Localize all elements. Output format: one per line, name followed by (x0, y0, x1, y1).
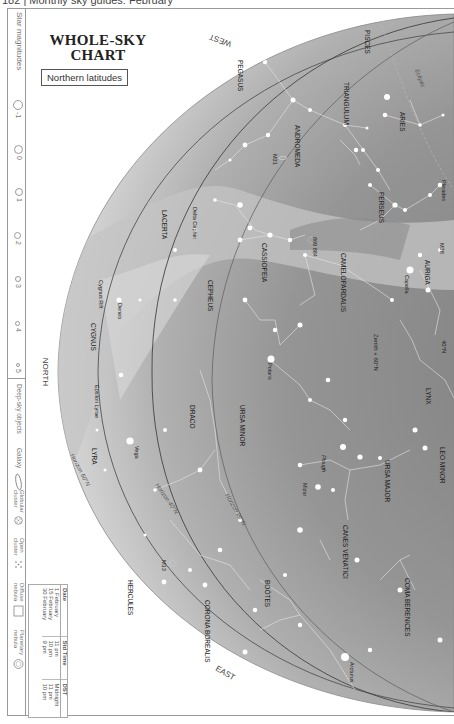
svg-text:Deneb: Deneb (117, 303, 123, 319)
svg-text:Epsilon Lyrae: Epsilon Lyrae (94, 385, 100, 418)
legend-globular-cluster: Globular cluster (13, 490, 25, 525)
svg-text:Delta Cephei: Delta Cephei (192, 207, 198, 239)
time-table-wrapper: Date Std Time DST 1 February 11 pm Midni… (28, 584, 68, 718)
magnitude-item: 0 (14, 145, 23, 160)
svg-text:Mizar: Mizar (302, 483, 308, 497)
magnitude-dot-icon (15, 321, 20, 326)
lat40-label: 40°N (441, 340, 447, 353)
galaxy-icon (15, 473, 22, 491)
svg-text:ARIES: ARIES (399, 112, 406, 132)
magnitude-item: 5 (15, 363, 22, 373)
chart-title: WHOLE-SKY CHART (48, 33, 148, 63)
legend-galaxy: Galaxy (15, 448, 23, 491)
svg-text:LYNX: LYNX (425, 388, 432, 405)
legend-strip: Star magnitudes -1 0 1 2 3 4 5 Deep-sky … (7, 8, 26, 716)
svg-text:Vega: Vega (134, 446, 140, 459)
magnitude-dot-icon (16, 363, 20, 367)
magnitude-item: 1 (15, 188, 23, 202)
globular-cluster-icon (15, 516, 24, 525)
svg-text:Capella: Capella (404, 275, 410, 295)
svg-text:Cygnus Rift: Cygnus Rift (98, 280, 104, 309)
svg-text:CANES VENATICI: CANES VENATICI (342, 525, 349, 579)
legend-planetary-nebula: Planetary nebula (13, 630, 25, 670)
chart-subtitle: Northern latitudes (41, 69, 128, 86)
whole-sky-chart: WEST NORTH EAST Horizon 60°N Horizon 40°… (26, 9, 454, 715)
magnitude-dot-icon (15, 188, 23, 196)
magnitude-dot-icon (14, 232, 21, 239)
svg-text:M31: M31 (272, 154, 278, 165)
svg-text:M13: M13 (161, 560, 167, 571)
open-cluster-icon (15, 560, 24, 569)
legend-divider (7, 378, 26, 379)
svg-text:PERSEUS: PERSEUS (378, 192, 385, 224)
time-table: Date Std Time DST 1 February 11 pm Midni… (42, 585, 68, 718)
svg-text:URSA MINOR: URSA MINOR (239, 405, 246, 446)
svg-text:CYGNUS: CYGNUS (90, 323, 97, 351)
svg-text:DRACO: DRACO (189, 405, 196, 428)
svg-text:Arcturus: Arcturus (349, 662, 355, 683)
west-label: WEST (208, 32, 233, 48)
svg-text:Plough: Plough (321, 455, 327, 472)
time-table-header: Date Std Time DST (61, 585, 69, 718)
magnitude-item: -1 (13, 100, 23, 118)
magnitudes-label: Star magnitudes (15, 12, 24, 70)
magnitude-item: 4 (15, 321, 22, 332)
svg-text:CEPHEUS: CEPHEUS (207, 280, 214, 312)
svg-text:CASSIOPEIA: CASSIOPEIA (261, 243, 268, 283)
deep-sky-label: Deep-sky objects (16, 384, 23, 434)
legend-open-cluster: Open cluster (13, 538, 25, 569)
svg-text:LYRA: LYRA (91, 448, 98, 465)
time-table-row: 1 February 11 pm Midnight (54, 585, 61, 718)
magnitude-dot-icon (14, 145, 23, 154)
svg-text:ANDROMEDA: ANDROMEDA (294, 125, 301, 168)
svg-text:COMA BERENICES: COMA BERENICES (404, 578, 411, 637)
magnitude-dot-icon (13, 100, 23, 110)
svg-text:869 884: 869 884 (312, 237, 318, 257)
svg-text:M38: M38 (439, 243, 445, 254)
title-block: WHOLE-SKY CHART Northern latitudes (48, 33, 148, 86)
svg-text:AURIGA: AURIGA (424, 260, 431, 286)
magnitude-item: 3 (15, 276, 22, 288)
svg-text:Pleiades: Pleiades (441, 180, 447, 201)
magnitude-item: 2 (14, 232, 22, 245)
legend-diffuse-nebula: Diffuse nebula (13, 583, 25, 617)
time-table-row: 30 February 9 pm 10 pm (42, 585, 48, 718)
svg-text:CORONA BOREALIS: CORONA BOREALIS (204, 600, 211, 663)
north-label: NORTH (41, 358, 50, 387)
svg-text:CAMELOPARDALIS: CAMELOPARDALIS (340, 253, 347, 313)
svg-text:LACERTA: LACERTA (161, 210, 168, 240)
east-label: EAST (214, 664, 237, 682)
time-table-row: 15 February 10 pm 11 pm (48, 585, 54, 718)
planetary-nebula-icon (14, 658, 25, 670)
svg-text:LEO MINOR: LEO MINOR (439, 447, 446, 484)
svg-text:TRIANGULUM: TRIANGULUM (343, 82, 350, 125)
page-header: 182 | Monthly sky guides: February (0, 0, 454, 8)
svg-text:PISCES: PISCES (364, 30, 371, 55)
magnitude-dot-icon (15, 276, 21, 282)
svg-text:PEGASUS: PEGASUS (237, 60, 244, 92)
svg-text:URSA MAJOR: URSA MAJOR (384, 460, 391, 503)
svg-text:Polaris: Polaris (267, 363, 273, 380)
diffuse-nebula-icon (14, 605, 25, 617)
zenith-label: Zenith + 60°N (373, 334, 379, 371)
svg-text:BOÖTES: BOÖTES (264, 580, 271, 608)
svg-text:HERCULES: HERCULES (127, 580, 134, 616)
